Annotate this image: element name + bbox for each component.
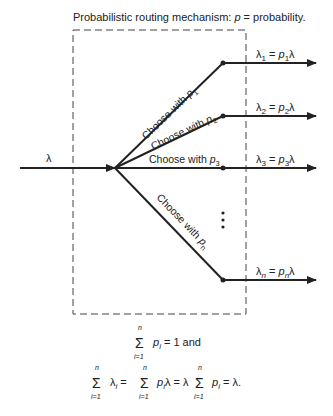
- ellipsis-dot: [221, 225, 224, 228]
- svg-text:λi =: λi =: [110, 376, 127, 391]
- output-label-2: λ2 = p2λ: [256, 101, 295, 116]
- svg-text:Σ: Σ: [195, 375, 204, 391]
- svg-text:Σ: Σ: [135, 335, 144, 351]
- ellipsis-dot: [221, 218, 224, 221]
- formula-sum-probabilities: n Σ i=1 pi = 1 and: [134, 324, 201, 360]
- svg-text:i=1: i=1: [134, 353, 144, 360]
- output-label-n: λn = pnλ: [256, 265, 295, 280]
- svg-text:Σ: Σ: [140, 375, 149, 391]
- formula-sum-rates: n Σ i=1 λi = n Σ i=1 piλ = λ n Σ i=1 pi …: [91, 364, 241, 400]
- svg-text:n: n: [95, 364, 99, 371]
- ellipsis-dot: [221, 211, 224, 214]
- svg-text:n: n: [143, 364, 147, 371]
- choose-label-n: Choose with pn: [152, 191, 212, 252]
- output-label-1: λ1 = p1λ: [256, 48, 295, 63]
- svg-text:piλ = λ: piλ = λ: [156, 376, 189, 391]
- routing-diagram: Probabilistic routing mechanism: p = pro…: [0, 0, 333, 416]
- branch-line-n: [115, 168, 223, 280]
- svg-text:i=1: i=1: [139, 393, 149, 400]
- svg-text:i=1: i=1: [91, 393, 101, 400]
- svg-text:Σ: Σ: [92, 375, 101, 391]
- svg-text:n: n: [198, 364, 202, 371]
- svg-text:pi = λ.: pi = λ.: [211, 376, 241, 391]
- choose-label-3: Choose with p3: [149, 153, 220, 168]
- svg-text:i=1: i=1: [194, 393, 204, 400]
- diagram-title: Probabilistic routing mechanism: p = pro…: [73, 11, 305, 23]
- svg-text:pi = 1 and: pi = 1 and: [152, 336, 201, 351]
- routing-mechanism-box: [73, 30, 246, 314]
- svg-text:n: n: [138, 324, 142, 331]
- input-label: λ: [46, 152, 52, 164]
- output-label-3: λ3 = p3λ: [256, 153, 295, 168]
